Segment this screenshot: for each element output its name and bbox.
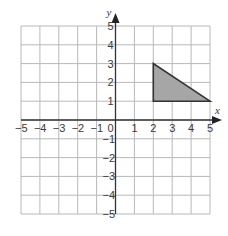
y-tick-label: −3: [103, 170, 116, 182]
y-tick-label: −4: [103, 189, 116, 201]
x-tick-label: 3: [169, 122, 175, 134]
coordinate-plane: −5−4−3−2−101234554321−1−2−3−4−5 x y: [0, 0, 228, 236]
y-tick-label: −2: [103, 152, 116, 164]
x-tick-label: 1: [131, 122, 137, 134]
axes: [21, 13, 222, 214]
x-axis-arrow-icon: [212, 116, 222, 124]
y-tick-label: −1: [103, 133, 116, 145]
x-tick-label: 5: [207, 122, 213, 134]
x-axis-label: x: [214, 104, 220, 116]
y-tick-label: −5: [103, 208, 116, 220]
y-tick-label: 1: [108, 95, 114, 107]
x-tick-label: −4: [34, 122, 47, 134]
x-tick-label: −2: [72, 122, 85, 134]
y-tick-label: 3: [108, 58, 114, 70]
y-tick-label: 2: [108, 76, 114, 88]
x-tick-label: 2: [150, 122, 156, 134]
y-tick-label: 5: [108, 20, 114, 32]
x-tick-label: 4: [188, 122, 194, 134]
x-tick-label: −5: [15, 122, 28, 134]
y-tick-label: 4: [108, 39, 114, 51]
x-tick-label: −3: [53, 122, 66, 134]
y-axis-label: y: [106, 6, 112, 18]
x-tick-label: −1: [91, 122, 104, 134]
